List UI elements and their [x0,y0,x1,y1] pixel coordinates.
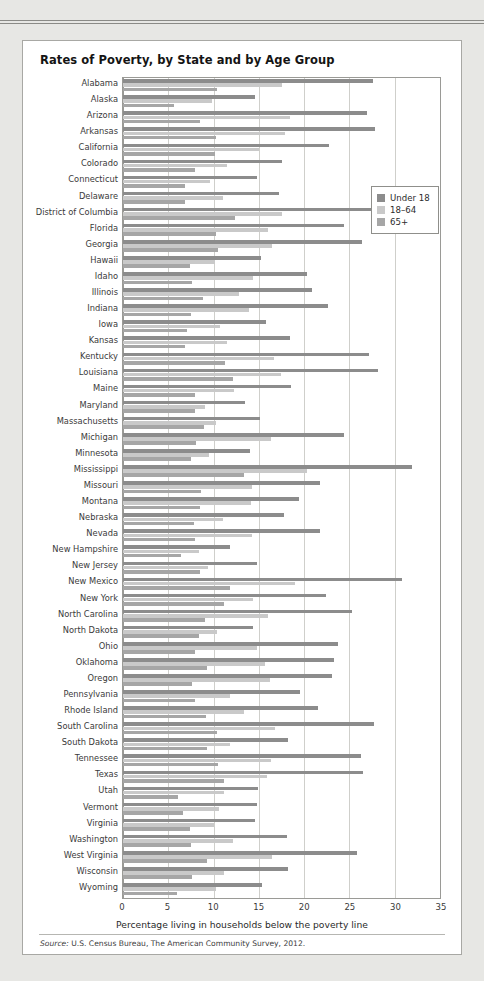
y-axis-label: Pennsylvania [63,690,123,698]
bar-a1864 [123,99,212,103]
bar-a1864 [123,325,220,329]
bar-a65 [123,104,174,108]
bar-u18 [123,111,367,115]
bar-group-row: Pennsylvania [123,689,440,705]
bar-a65 [123,827,190,831]
bar-a1864 [123,244,272,248]
x-tick-label-20: 20 [299,902,310,912]
x-tick-label-30: 30 [390,902,401,912]
bar-u18 [123,288,312,292]
y-axis-label: Maine [93,384,123,392]
bar-a1864 [123,453,209,457]
bar-a65 [123,522,194,526]
bar-u18 [123,176,257,180]
bar-a1864 [123,469,307,473]
y-axis-label: Mississippi [74,465,123,473]
bar-u18 [123,771,363,775]
bar-a1864 [123,485,252,489]
bar-a65 [123,682,192,686]
bar-a65 [123,409,195,413]
y-axis-label: Rhode Island [64,706,123,714]
bar-a65 [123,843,191,847]
bar-a65 [123,313,191,317]
bar-u18 [123,79,373,83]
bar-a1864 [123,437,271,441]
y-axis-label: Oklahoma [76,658,123,666]
bar-u18 [123,240,362,244]
bar-group-row: Wyoming [123,882,440,898]
bar-a65 [123,538,195,542]
y-axis-label: Nevada [86,529,123,537]
bar-a65 [123,120,200,124]
x-tick-label-35: 35 [436,902,447,912]
y-axis-label: Maryland [80,401,123,409]
y-axis-label: Louisiana [79,368,123,376]
bar-a65 [123,699,195,703]
y-axis-label: Alaska [91,95,123,103]
bar-group-row: Alaska [123,94,440,110]
bar-group-row: Illinois [123,287,440,303]
bar-u18 [123,883,262,887]
bar-u18 [123,562,257,566]
legend-swatch-icon-under-18 [377,194,385,202]
bar-a1864 [123,357,274,361]
bar-a65 [123,232,216,236]
y-axis-label: New Hampshire [52,545,123,553]
bar-a65 [123,586,230,590]
figure-title: Rates of Poverty, by State and by Age Gr… [40,53,335,67]
bar-u18 [123,754,361,758]
y-axis-label: Illinois [92,288,123,296]
x-tick-label-5: 5 [165,902,170,912]
bar-a65 [123,811,183,815]
bar-a65 [123,506,200,510]
bar-chart-canvas: AlabamaAlaskaArizonaArkansasCaliforniaCo… [122,77,441,899]
bar-group-row: Louisiana [123,367,440,383]
bar-group-row: Maryland [123,400,440,416]
legend-item-65-plus: 65+ [377,217,430,227]
bar-a65 [123,345,185,349]
legend-item-under-18: Under 18 [377,193,430,203]
bar-a65 [123,795,178,799]
bar-a1864 [123,678,270,682]
bar-u18 [123,722,374,726]
bar-group-row: North Carolina [123,609,440,625]
bar-u18 [123,433,344,437]
x-tick-label-15: 15 [253,902,264,912]
bar-group-row: Nebraska [123,512,440,528]
bar-u18 [123,417,260,421]
bar-group-row: Colorado [123,158,440,174]
bar-u18 [123,867,288,871]
bar-group-row: New Jersey [123,560,440,576]
bar-group-row: Montana [123,496,440,512]
screenshot-page: Rates of Poverty, by State and by Age Gr… [0,0,484,981]
bar-group-row: Oklahoma [123,657,440,673]
bar-u18 [123,95,255,99]
y-axis-label: Washington [69,835,123,843]
bar-u18 [123,256,261,260]
bar-a65 [123,731,217,735]
bar-group-row: California [123,142,440,158]
bar-group-row: Arizona [123,110,440,126]
y-axis-label: Hawaii [90,256,123,264]
bar-a1864 [123,614,268,618]
bar-u18 [123,385,291,389]
y-axis-label: Georgia [85,240,123,248]
bar-a1864 [123,501,251,505]
bar-group-row: Kentucky [123,351,440,367]
bar-a1864 [123,405,205,409]
bar-a65 [123,264,190,268]
bar-a65 [123,329,187,333]
legend-label-65-plus: 65+ [390,217,408,227]
bar-group-row: North Dakota [123,625,440,641]
bar-a1864 [123,228,268,232]
x-axis-ticks: 05101520253035 [122,899,441,915]
source-note: Source: U.S. Census Bureau, The American… [40,939,305,948]
bar-a1864 [123,807,219,811]
y-axis-label: District of Columbia [36,208,123,216]
y-axis-label: South Dakota [62,738,123,746]
bar-a1864 [123,566,208,570]
bar-u18 [123,208,397,212]
y-axis-label: New York [80,594,123,602]
bar-a1864 [123,132,285,136]
bar-a65 [123,297,203,301]
